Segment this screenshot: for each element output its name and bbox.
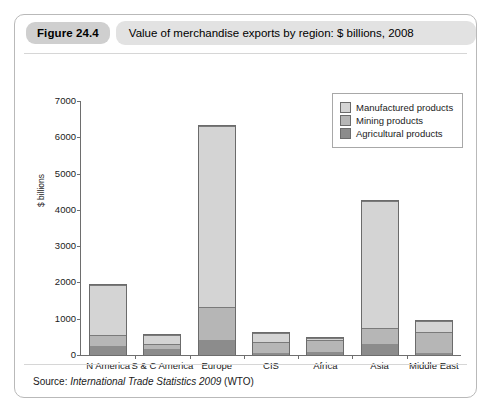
chart-legend: Manufactured products Mining products Ag… bbox=[332, 93, 463, 148]
y-axis-tick-mark bbox=[77, 246, 81, 247]
y-axis-tick-mark bbox=[77, 137, 81, 138]
legend-swatch-mining bbox=[340, 115, 351, 126]
bar-group bbox=[135, 101, 189, 355]
source-note: Source: International Trade Statistics 2… bbox=[33, 376, 254, 387]
x-axis-tick-mark bbox=[298, 355, 299, 359]
stacked-bar[interactable] bbox=[89, 284, 127, 355]
legend-item-mining: Mining products bbox=[340, 115, 453, 126]
y-axis-tick-mark bbox=[77, 355, 81, 356]
x-axis-tick-label: Europe bbox=[201, 361, 232, 371]
bar-segment bbox=[144, 335, 180, 344]
y-axis-tick-mark bbox=[77, 210, 81, 211]
x-axis-tick-mark bbox=[352, 355, 353, 359]
bar-segment bbox=[199, 126, 235, 308]
figure-container: Figure 24.4 Value of merchandise exports… bbox=[14, 14, 477, 398]
x-axis-tick-label: Middle East bbox=[409, 361, 459, 371]
y-axis-tick-mark bbox=[77, 101, 81, 102]
bar-segment bbox=[362, 328, 398, 344]
bar-segment bbox=[307, 340, 343, 352]
bar-segment bbox=[253, 353, 289, 355]
y-axis-label: $ billions bbox=[36, 174, 46, 207]
bar-segment bbox=[90, 335, 126, 346]
stacked-bar[interactable] bbox=[198, 125, 236, 355]
bar-segment bbox=[362, 201, 398, 328]
x-axis-tick-label: S & C America bbox=[132, 361, 194, 371]
x-axis-tick-mark bbox=[407, 355, 408, 359]
bar-segment bbox=[253, 342, 289, 353]
bar-segment bbox=[416, 332, 452, 353]
bar-segment bbox=[416, 321, 452, 332]
bar-segment bbox=[144, 349, 180, 355]
source-divider bbox=[24, 364, 467, 365]
y-axis-tick-mark bbox=[77, 282, 81, 283]
x-axis-tick-mark bbox=[190, 355, 191, 359]
legend-item-agricultural: Agricultural products bbox=[340, 128, 453, 139]
x-axis-tick-label: CIS bbox=[263, 361, 279, 371]
chart-panel: $ billions 01000200030004000500060007000… bbox=[24, 57, 469, 364]
figure-number-badge: Figure 24.4 bbox=[26, 22, 110, 44]
bar-segment bbox=[362, 344, 398, 355]
bar-group bbox=[190, 101, 244, 355]
stacked-bar[interactable] bbox=[306, 337, 344, 355]
stacked-bar[interactable] bbox=[415, 320, 453, 355]
bar-segment bbox=[253, 333, 289, 342]
bar-group bbox=[244, 101, 298, 355]
plot-wrapper: $ billions 01000200030004000500060007000… bbox=[24, 57, 469, 364]
bar-segment bbox=[199, 340, 235, 355]
bar-segment bbox=[90, 285, 126, 335]
stacked-bar[interactable] bbox=[252, 332, 290, 355]
x-axis-tick-mark bbox=[135, 355, 136, 359]
x-axis-tick-label: Asia bbox=[370, 361, 388, 371]
bar-segment bbox=[199, 307, 235, 340]
legend-label-manufactured: Manufactured products bbox=[356, 103, 453, 113]
y-axis-tick-mark bbox=[77, 319, 81, 320]
source-publication-title: International Trade Statistics 2009 bbox=[70, 376, 221, 387]
x-axis-tick-mark bbox=[244, 355, 245, 359]
header-divider bbox=[24, 53, 467, 54]
stacked-bar[interactable] bbox=[361, 200, 399, 355]
bar-segment bbox=[307, 352, 343, 355]
legend-swatch-manufactured bbox=[340, 102, 351, 113]
figure-title: Value of merchandise exports by region: … bbox=[116, 21, 476, 45]
source-prefix: Source: bbox=[33, 376, 67, 387]
bar-group bbox=[81, 101, 135, 355]
legend-label-mining: Mining products bbox=[356, 116, 423, 126]
legend-item-manufactured: Manufactured products bbox=[340, 102, 453, 113]
bar-segment bbox=[90, 346, 126, 355]
legend-label-agricultural: Agricultural products bbox=[356, 129, 443, 139]
y-axis-tick-mark bbox=[77, 174, 81, 175]
figure-header: Figure 24.4 Value of merchandise exports… bbox=[15, 15, 476, 51]
stacked-bar[interactable] bbox=[143, 334, 181, 355]
legend-swatch-agricultural bbox=[340, 128, 351, 139]
source-suffix: (WTO) bbox=[224, 376, 254, 387]
bar-segment bbox=[416, 353, 452, 355]
x-axis-tick-label: N America bbox=[86, 361, 130, 371]
x-axis-tick-label: Africa bbox=[313, 361, 337, 371]
